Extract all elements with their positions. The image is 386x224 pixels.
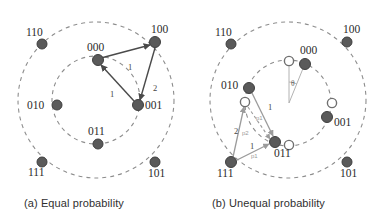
panel-b-node-000[interactable] [300,59,311,70]
panel-b-weight-111-010h: 2 [234,126,238,136]
panel-b-weight-010-011: 1 [268,102,272,112]
panel-a-label-001: 001 [145,99,163,111]
figure-canvas: 110 100 010 011 111 101 000 001 1 2 1 θ [0,0,386,224]
panel-b-label-100: 100 [343,23,361,35]
panel-b-label-000: 000 [300,44,318,56]
panel-a-node-010[interactable] [52,100,62,110]
panel-b-node-100[interactable] [342,37,352,47]
panel-a-weight-100-001: 2 [153,83,157,93]
panel-b-node-010[interactable] [244,83,255,94]
panel-a-node-100[interactable] [150,37,161,48]
panel-b-label-001: 001 [334,116,352,128]
panel-a-label-111: 111 [28,166,45,178]
panel-b-inner-circle [245,60,331,146]
panel-b-hollow-node-010[interactable] [240,97,249,106]
panel-b-node-011[interactable] [270,137,281,148]
panel-b-prob-111-010h: p2 [242,130,249,136]
panel-a-weight-001-000: 1 [110,89,114,99]
panel-b-angle-label: θ [291,79,295,88]
panel-a-label-100: 100 [151,23,169,35]
panel-b-node-001[interactable] [322,112,333,123]
panel-b-hollow-node-001[interactable] [327,98,336,107]
panel-a-node-011[interactable] [93,139,103,149]
panel-b-label-111: 111 [217,167,234,179]
panel-a-caption: (a) Equal probability [24,197,124,209]
panel-a-label-101: 101 [148,167,166,179]
figure-root: 110 100 010 011 111 101 000 001 1 2 1 θ [0,0,386,224]
panel-a-node-000[interactable] [93,55,104,66]
panel-b-node-110[interactable] [226,39,236,49]
panel-b-node-111[interactable] [226,157,237,168]
panel-b-caption: (b) Unequal probability [212,197,325,209]
panel-a-label-110: 110 [26,26,43,38]
panel-a: 110 100 010 011 111 101 000 001 1 2 1 [18,22,174,179]
panel-a-node-110[interactable] [37,39,47,49]
panel-b-label-010: 010 [221,79,239,91]
panel-a-label-011: 011 [88,125,105,137]
panel-a-label-010: 010 [27,99,45,111]
panel-b: θ 110 100 111 101 000 [210,22,366,179]
panel-a-edge-000-100 [101,45,150,58]
panel-b-prob-010h-011: p1 [256,115,263,121]
panel-a-node-001[interactable] [133,100,144,111]
panel-b-label-101: 101 [340,167,358,179]
panel-a-weight-000-100: 1 [128,62,132,72]
panel-a-node-101[interactable] [150,157,160,167]
panel-b-label-011: 011 [274,147,291,159]
panel-b-weight-111-011: 1 [250,141,254,151]
panel-b-prob-111-011: p1 [251,153,258,159]
panel-b-label-110: 110 [215,26,232,38]
panel-a-label-000: 000 [87,41,105,53]
panel-b-hollow-node-000[interactable] [284,56,293,65]
panel-b-node-101[interactable] [342,157,352,167]
